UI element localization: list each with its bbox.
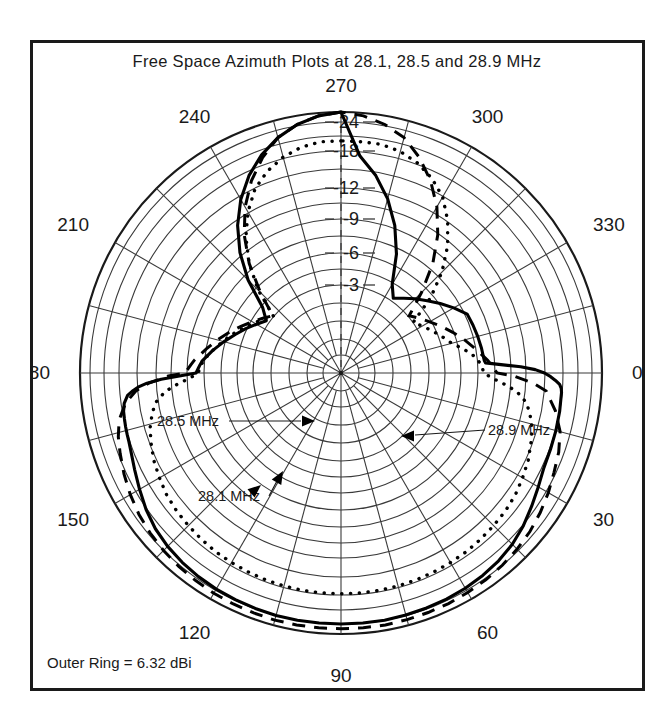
grid-spoke-120: [211, 373, 342, 599]
azimuth-label-30: 30: [593, 509, 614, 530]
azimuth-label-180: 180: [33, 362, 50, 383]
screenshot-page: Free Space Azimuth Plots at 28.1, 28.5 a…: [0, 0, 668, 713]
annotation-leader: [415, 430, 485, 435]
azimuth-label-150: 150: [57, 509, 89, 530]
azimuth-label-120: 120: [179, 622, 211, 643]
azimuth-label-90: 90: [330, 665, 351, 686]
azimuth-label-330: 330: [593, 214, 625, 235]
grid-spoke-105: [273, 390, 336, 625]
azimuth-label-270: 270: [325, 75, 357, 96]
grid-spoke-135: [156, 386, 328, 558]
chart-title: Free Space Azimuth Plots at 28.1, 28.5 a…: [133, 52, 542, 70]
azimuth-label-300: 300: [472, 106, 504, 127]
grid-spoke-300: [341, 147, 472, 373]
outer-ring-note: Outer Ring = 6.32 dBi: [47, 654, 192, 671]
azimuth-label-60: 60: [477, 622, 498, 643]
azimuth-label-240: 240: [179, 106, 211, 127]
polar-plot: Free Space Azimuth Plots at 28.1, 28.5 a…: [33, 43, 642, 688]
grid-spoke-210: [115, 243, 341, 374]
grid-spoke-150: [115, 373, 341, 504]
azimuth-label-0: 0: [632, 362, 642, 383]
figure-frame: Free Space Azimuth Plots at 28.1, 28.5 a…: [30, 40, 645, 691]
radial-tick-label--12: -12: [333, 178, 359, 198]
grid-spoke-60: [341, 373, 472, 599]
radial-tick-label--6: -6: [343, 243, 359, 263]
radial-tick-label--9: -9: [343, 209, 359, 229]
azimuth-label-210: 210: [57, 214, 89, 235]
grid-spoke-30: [341, 373, 567, 504]
azimuth-tick-labels: 0306090120150180210240270300330: [33, 75, 642, 686]
grid-spoke-45: [354, 386, 526, 558]
radial-tick-label--3: -3: [343, 275, 359, 295]
grid-spoke-345: [358, 305, 593, 368]
grid-spoke-225: [156, 188, 328, 360]
series-annotations: 28.5 MHz28.9 MHz28.1 MHz: [157, 413, 550, 504]
annotation-label-28-9-mhz: 28.9 MHz: [488, 422, 550, 438]
annotation-label-28-5-mhz: 28.5 MHz: [157, 413, 219, 429]
